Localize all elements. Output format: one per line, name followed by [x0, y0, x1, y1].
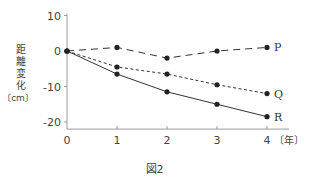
figure-caption: 図2: [0, 160, 309, 176]
axes: 100-10-2001234〔年〕: [43, 10, 304, 148]
series-label-r: R: [274, 111, 283, 124]
x-tick-label: 4: [264, 134, 271, 147]
data-point: [214, 102, 219, 107]
data-point: [164, 89, 169, 94]
y-axis-label-char: 変: [7, 68, 35, 80]
data-point: [164, 56, 169, 61]
y-tick-label: -10: [43, 81, 61, 94]
x-axis-label: 〔年〕: [274, 134, 304, 146]
y-axis-label-char: 離: [7, 56, 35, 68]
data-point: [214, 82, 219, 87]
data-point: [264, 114, 269, 119]
x-tick-label: 2: [164, 134, 171, 147]
data-point: [114, 64, 119, 69]
x-tick-label: 1: [114, 134, 121, 147]
data-point: [214, 48, 219, 53]
data-point: [264, 45, 269, 50]
data-point: [164, 71, 169, 76]
data-point: [114, 71, 119, 76]
data-point: [114, 45, 119, 50]
y-tick-label: -20: [43, 116, 61, 129]
y-tick-label: 0: [54, 45, 61, 58]
series-line-r: [67, 51, 267, 117]
x-tick-label: 0: [64, 134, 71, 147]
y-axis-label-char: 化: [7, 80, 35, 92]
line-chart: 100-10-2001234〔年〕 PQR: [0, 0, 309, 187]
y-axis-label-char: 距: [7, 44, 35, 56]
y-axis-label: 距 離 変 化 〔cm〕: [7, 44, 35, 104]
data-point: [64, 48, 69, 53]
x-tick-label: 3: [214, 134, 221, 147]
series-label-p: P: [274, 41, 282, 54]
data-point: [264, 91, 269, 96]
y-axis-unit: 〔cm〕: [1, 92, 35, 104]
series-group: PQR: [64, 41, 283, 123]
y-tick-label: 10: [47, 10, 61, 23]
series-label-q: Q: [274, 88, 283, 101]
